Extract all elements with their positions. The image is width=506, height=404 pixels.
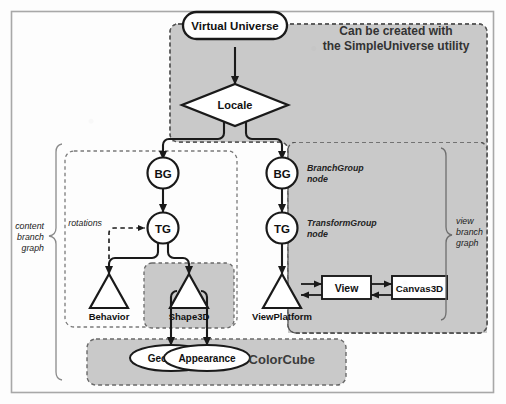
node-bg-left[interactable]: BG [148,158,179,189]
tg-right-label: TG [274,223,290,235]
node-appearance[interactable]: Appearance [164,345,250,371]
bg-left-label: BG [154,168,171,180]
virtual-universe-label: Virtual Universe [191,20,278,32]
node-tg-right[interactable]: TG [267,213,298,244]
rotations-edge-label: rotations [68,218,102,228]
node-virtual-universe[interactable]: Virtual Universe [183,12,287,39]
node-view[interactable]: View [322,276,371,299]
colorcube-group-label: ColorCube [249,352,315,367]
tg-left-label: TG [155,223,171,235]
branchgroup-note-line1: BranchGroup [307,163,364,173]
view-branch-bracket-label-2: branch [456,227,483,237]
view-branch-bracket-label-1: view [456,216,474,226]
behavior-label: Behavior [89,311,130,322]
content-branch-bracket-label-1: content [15,221,44,231]
node-canvas3d[interactable]: Canvas3D [392,276,447,299]
transformgroup-note-line2: node [307,229,328,239]
diagram-canvas: Virtual Universe Locale BG TG BG TG Beha… [0,0,506,404]
canvas3d-label: Canvas3D [396,283,443,294]
appearance-label: Appearance [178,353,236,364]
locale-label: Locale [218,99,253,111]
bg-right-label: BG [273,168,290,180]
content-branch-bracket-label-3: graph [22,243,45,253]
shape3d-label: Shape3D [169,311,210,322]
view-branch-bracket-label-3: graph [456,238,479,248]
view-platform-label: ViewPlatform [252,311,312,322]
branchgroup-note-line2: node [307,174,328,184]
simpleuniverse-note-line2: the SimpleUniverse utility [323,39,470,53]
transformgroup-note-line1: TransformGroup [307,218,377,228]
node-bg-right[interactable]: BG [267,158,298,189]
node-tg-left[interactable]: TG [148,213,179,244]
simpleuniverse-note-line1: Can be created with [339,24,452,38]
content-branch-bracket-label-2: branch [17,232,44,242]
scene-graph-diagram: Virtual Universe Locale BG TG BG TG Beha… [0,0,506,404]
view-label: View [335,282,360,294]
